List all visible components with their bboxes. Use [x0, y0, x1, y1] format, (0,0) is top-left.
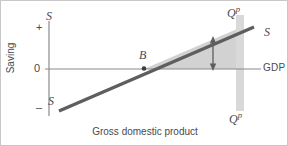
break-even-point-marker — [142, 66, 147, 71]
potential-output-band — [236, 15, 244, 111]
saving-schedule-plot — [1, 1, 288, 146]
positive-saving-shaded-triangle — [144, 26, 244, 69]
saving-schedule-figure: Saving S + 0 – S S B GDP Qp Qp Gross dom… — [0, 0, 288, 146]
